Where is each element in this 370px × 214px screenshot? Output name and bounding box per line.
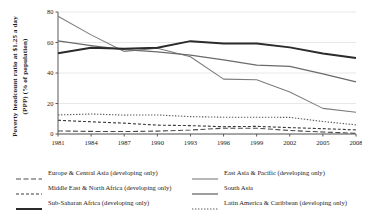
legend-row: Middle East & North Africa (developing o… (16, 180, 364, 195)
y-tick-labels: 020406080 (47, 8, 53, 137)
x-tick-label: 2005 (316, 139, 330, 146)
x-tick-label: 2002 (283, 139, 296, 146)
y-tick-label: 40 (47, 69, 53, 76)
legend-item-label: East Asia & Pacific (developing only) (224, 169, 325, 177)
legend-line-icon (16, 199, 42, 207)
y-axis-title-line-2: (PPP) (% of population) (20, 16, 30, 137)
legend-item[interactable]: Sub-Saharan Africa (developing only) (16, 195, 192, 210)
legend-item[interactable]: Europe & Central Asia (developing only) (16, 165, 192, 180)
x-tick-label: 1996 (217, 139, 231, 146)
y-tick-label: 80 (47, 8, 53, 15)
x-tick-label: 1999 (250, 139, 264, 146)
series-line (58, 120, 356, 130)
legend-item-label: Sub-Saharan Africa (developing only) (48, 199, 149, 207)
legend-item-label: South Asia (224, 184, 253, 192)
poverty-headcount-line-chart: Poverty headcount ratio at $1.25 a day (… (0, 0, 370, 214)
y-axis-title-line-1: Poverty headcount ratio at $1.25 a day (11, 16, 21, 137)
legend-item-label: Latin America & Caribbean (developing on… (224, 199, 347, 207)
legend-line-icon (16, 184, 42, 192)
series-line (58, 114, 356, 125)
x-tick-label: 1981 (51, 139, 64, 146)
y-axis-title: Poverty headcount ratio at $1.25 a day (… (0, 0, 40, 152)
legend-row: Sub-Saharan Africa (developing only)Lati… (16, 195, 364, 210)
legend-line-icon (192, 199, 218, 207)
legend-line-icon (192, 184, 218, 192)
legend-item[interactable]: East Asia & Pacific (developing only) (192, 165, 364, 180)
x-tick-label: 2008 (349, 139, 362, 146)
legend-item-label: Europe & Central Asia (developing only) (48, 169, 158, 177)
x-tick-label: 1990 (151, 139, 165, 146)
series-line (58, 41, 356, 82)
x-tick-label: 1984 (85, 139, 99, 146)
gridlines (58, 12, 356, 134)
legend-line-icon (192, 169, 218, 177)
legend-item-label: Middle East & North Africa (developing o… (48, 184, 172, 192)
y-tick-label: 0 (50, 130, 53, 137)
legend-row: Europe & Central Asia (developing only)E… (16, 165, 364, 180)
y-tick-label: 20 (47, 100, 53, 107)
x-tick-label: 1987 (118, 139, 132, 146)
series-line (58, 41, 356, 58)
chart-legend: Europe & Central Asia (developing only)E… (16, 165, 364, 210)
legend-item[interactable]: Middle East & North Africa (developing o… (16, 180, 192, 195)
legend-item[interactable]: South Asia (192, 180, 364, 195)
data-series-group (58, 16, 356, 133)
x-tick-label: 1993 (184, 139, 198, 146)
plot-area: 020406080 198119841987199019931996199920… (40, 6, 362, 156)
plot-svg: 020406080 198119841987199019931996199920… (40, 6, 362, 156)
series-line (58, 128, 356, 133)
legend-item[interactable]: Latin America & Caribbean (developing on… (192, 195, 364, 210)
legend-line-icon (16, 169, 42, 177)
series-line (58, 16, 356, 112)
x-tick-labels: 1981198419871990199319961999200220052008 (51, 139, 362, 146)
y-tick-label: 60 (47, 39, 53, 46)
